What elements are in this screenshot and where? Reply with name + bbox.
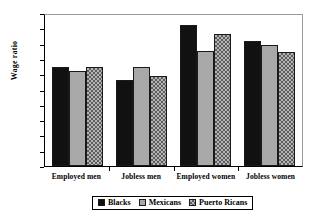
bar[interactable] — [244, 41, 261, 166]
x-axis-category-label: Jobless men — [109, 172, 174, 181]
legend-label: Puerto Ricans — [199, 198, 247, 207]
x-axis-category-label: Employed men — [44, 172, 109, 181]
bar-group — [238, 15, 302, 166]
bar-groups — [45, 15, 302, 166]
legend-item[interactable]: Blacks — [98, 198, 131, 207]
bar-group — [174, 15, 238, 166]
bar[interactable] — [150, 76, 167, 166]
wage-ratio-bar-chart: Wage ratio 10.90.80.70.60.50.40.30.20.10… — [0, 0, 315, 218]
legend-item[interactable]: Puerto Ricans — [189, 198, 247, 207]
x-axis-category-label: Jobless women — [238, 172, 303, 181]
legend-swatch-icon — [139, 199, 146, 206]
bar-group — [109, 15, 173, 166]
bar[interactable] — [86, 67, 103, 166]
bar[interactable] — [180, 25, 197, 166]
bar[interactable] — [197, 51, 214, 167]
chart-legend: BlacksMexicansPuerto Ricans — [92, 196, 253, 210]
bar[interactable] — [116, 80, 133, 166]
x-axis-category-label: Employed women — [174, 172, 239, 181]
bar[interactable] — [133, 67, 150, 166]
bar[interactable] — [52, 67, 69, 166]
x-axis-tick-mark — [174, 167, 175, 171]
bar-group — [45, 15, 109, 166]
y-axis-tick-mark — [40, 167, 44, 168]
x-axis-tick-mark — [238, 167, 239, 171]
legend-label: Mexicans — [149, 198, 181, 207]
legend-item[interactable]: Mexicans — [139, 198, 181, 207]
legend-swatch-icon — [189, 199, 196, 206]
bar[interactable] — [69, 71, 86, 166]
x-axis-tick-mark — [109, 167, 110, 171]
bar[interactable] — [278, 52, 295, 166]
bar[interactable] — [214, 34, 231, 166]
legend-swatch-icon — [98, 199, 105, 206]
legend-label: Blacks — [108, 198, 131, 207]
x-axis-labels: Employed menJobless menEmployed womenJob… — [44, 172, 303, 181]
bar[interactable] — [261, 45, 278, 166]
